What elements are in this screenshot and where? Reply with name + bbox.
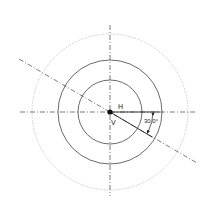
label-h: H: [118, 103, 123, 110]
angle-arrow-top: [152, 113, 155, 116]
angled-radius: [110, 112, 152, 137]
label-v: V: [111, 119, 116, 126]
diagram-canvas: H V 30.0°: [0, 0, 209, 223]
label-angle: 30.0°: [144, 118, 159, 124]
angle-arrow-bottom: [147, 130, 150, 134]
center-point: [107, 109, 112, 114]
